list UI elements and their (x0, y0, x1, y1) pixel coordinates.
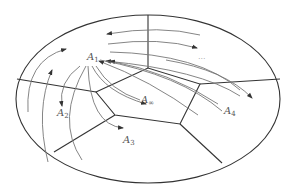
label-a-infinity: A∞ (140, 94, 154, 107)
ellipsis-label: ··· (198, 54, 206, 63)
point-labels: A1 A2 A3 A4 A∞ ··· (56, 51, 236, 147)
cell-boundaries (17, 15, 280, 163)
label-a2: A2 (56, 107, 69, 120)
label-a4: A4 (223, 105, 236, 118)
tessellation-diagram: A1 A2 A3 A4 A∞ ··· (0, 0, 296, 187)
label-a1: A1 (86, 51, 99, 64)
flow-arrows (28, 30, 252, 162)
diagram-canvas: A1 A2 A3 A4 A∞ ··· (0, 0, 296, 187)
label-a3: A3 (122, 134, 135, 147)
